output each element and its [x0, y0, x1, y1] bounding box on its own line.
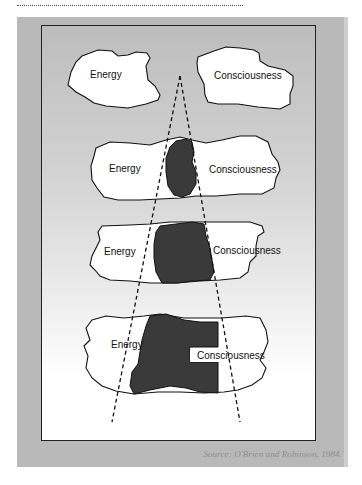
overlap-region: [154, 222, 214, 283]
source-caption: Source: O'Brien and Robinson, 1984.: [203, 449, 342, 459]
consciousness-label: Consciousness: [213, 245, 281, 256]
consciousness-label: Consciousness: [209, 164, 277, 175]
consciousness-label: Consciousness: [214, 70, 282, 81]
energy-consciousness-diagram: Energy Consciousness Energy Consciousnes…: [0, 0, 362, 485]
row-4: Energy Consciousness: [84, 314, 268, 394]
consciousness-label: Consciousness: [197, 350, 265, 361]
energy-label: Energy: [90, 69, 122, 80]
row-3: Energy Consciousness: [90, 222, 281, 283]
overlap-region: [166, 139, 196, 197]
energy-label: Energy: [104, 246, 136, 257]
energy-label: Energy: [109, 163, 141, 174]
row-2: Energy Consciousness: [91, 136, 280, 200]
